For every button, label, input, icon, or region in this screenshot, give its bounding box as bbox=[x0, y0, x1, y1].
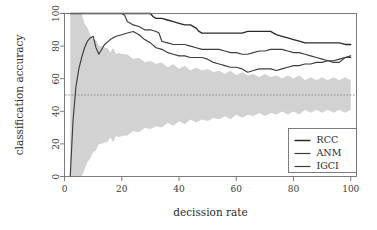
legend-label-rcc[interactable]: RCC bbox=[317, 134, 339, 145]
y-tick-label: 100 bbox=[51, 5, 61, 22]
chart-canvas: 020406080100 020406080100 decission rate… bbox=[0, 0, 377, 230]
y-tick-label: 0 bbox=[51, 173, 61, 179]
x-tick-label: 20 bbox=[116, 184, 128, 194]
x-tick-label: 0 bbox=[62, 184, 68, 194]
legend-label-igci[interactable]: IGCI bbox=[317, 160, 340, 171]
y-axis: 020406080100 bbox=[51, 5, 65, 180]
x-axis-title: decission rate bbox=[173, 206, 247, 218]
x-tick-label: 100 bbox=[342, 184, 359, 194]
x-axis: 020406080100 bbox=[62, 177, 360, 194]
legend-label-anm[interactable]: ANM bbox=[316, 147, 342, 158]
y-tick-label: 40 bbox=[51, 105, 61, 117]
y-axis-title: classification accuracy bbox=[13, 35, 25, 156]
chart-figure: 020406080100 020406080100 decission rate… bbox=[0, 0, 377, 230]
series-line-rcc bbox=[70, 14, 351, 45]
y-tick-label: 20 bbox=[51, 138, 61, 150]
chart-legend[interactable]: RCCANMIGCI bbox=[289, 129, 357, 173]
y-tick-label: 60 bbox=[51, 73, 61, 85]
x-tick-label: 40 bbox=[173, 184, 185, 194]
x-tick-label: 60 bbox=[231, 184, 243, 194]
x-tick-label: 80 bbox=[288, 184, 300, 194]
y-tick-label: 80 bbox=[51, 40, 61, 52]
